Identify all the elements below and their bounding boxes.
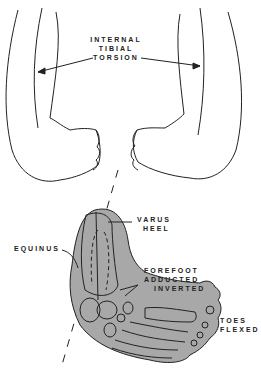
label-forefoot-adducted-inverted: FOREFOOT ADDUCTED INVERTED: [144, 266, 205, 293]
label-line: INTERNAL: [86, 35, 146, 44]
label-line: TORSION: [86, 53, 146, 62]
label-line: FLEXED: [220, 325, 260, 334]
label-varus-heel: VARUS HEEL: [137, 215, 171, 233]
label-line: TIBIAL: [86, 44, 146, 53]
label-line: FOREFOOT: [144, 266, 205, 275]
right-leg-outline: [133, 12, 241, 179]
label-equinus: EQUINUS: [14, 244, 60, 253]
label-line: TOES: [220, 316, 260, 325]
label-internal-tibial-torsion: INTERNAL TIBIAL TORSION: [86, 35, 146, 62]
label-line: ADDUCTED: [144, 275, 205, 284]
label-toes-flexed: TOES FLEXED: [220, 316, 260, 334]
label-line: VARUS: [137, 215, 171, 224]
label-line: INVERTED: [144, 284, 205, 293]
label-line: HEEL: [137, 224, 171, 233]
